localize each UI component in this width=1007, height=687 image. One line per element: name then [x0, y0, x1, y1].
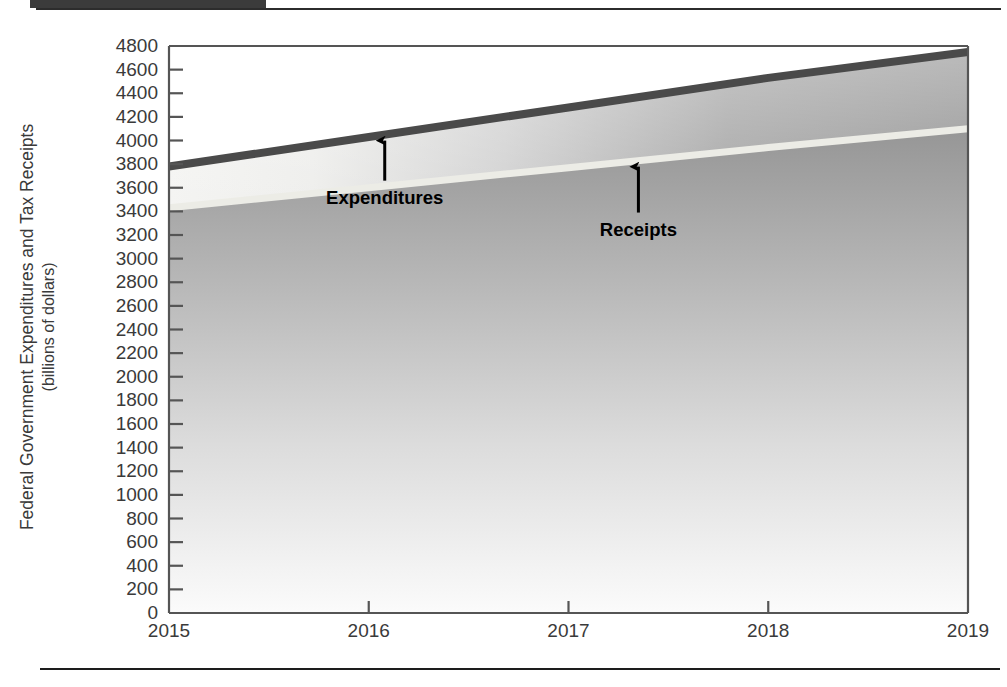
figure-page: Federal Government Expenditures and Tax … [0, 0, 1007, 687]
plot-area [0, 18, 1007, 663]
top-divider-rule [36, 8, 1001, 10]
receipts-annotation-label: Receipts [600, 219, 677, 241]
chart-figure: Federal Government Expenditures and Tax … [0, 18, 1007, 663]
area-fills [169, 52, 968, 613]
page-header-tab [30, 0, 266, 8]
expenditures-annotation-label: Expenditures [326, 187, 443, 209]
bottom-divider-rule [40, 668, 1000, 670]
